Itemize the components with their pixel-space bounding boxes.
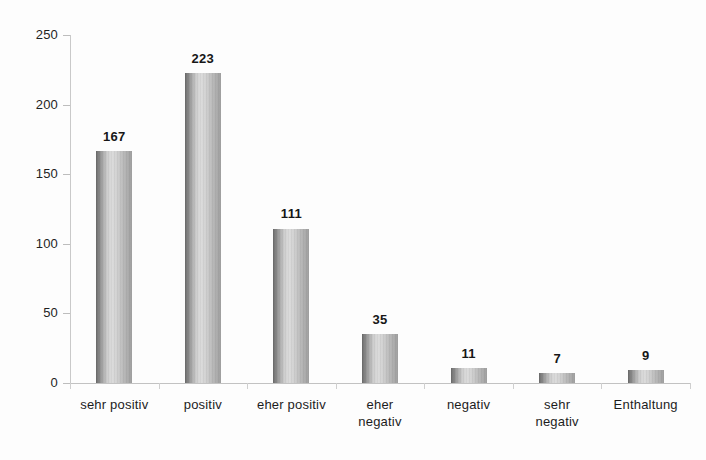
x-axis-category-label: eher negativ xyxy=(330,396,430,430)
x-axis-tick xyxy=(247,383,248,389)
bars-container xyxy=(70,30,690,383)
y-axis-tick-label: 100 xyxy=(10,236,58,251)
x-axis-category-label: eher positiv xyxy=(241,396,341,413)
bar-value-label: 223 xyxy=(163,51,243,66)
x-axis-category-label: sehr negativ xyxy=(507,396,607,430)
x-axis-category-label: Enthaltung xyxy=(596,396,696,413)
y-axis-tick xyxy=(63,383,70,384)
x-axis-tick xyxy=(70,383,71,389)
y-axis-tick xyxy=(63,313,70,314)
bar xyxy=(628,370,664,383)
bar-value-label: 167 xyxy=(74,129,154,144)
y-axis-tick-label: 250 xyxy=(10,27,58,42)
y-axis-tick-label: 0 xyxy=(10,375,58,390)
bar-chart: 050100150200250 167223111351179 sehr pos… xyxy=(0,0,706,460)
bar-value-label: 11 xyxy=(429,346,509,361)
bar-value-label: 7 xyxy=(517,351,597,366)
x-axis-category-label: positiv xyxy=(153,396,253,413)
y-axis-tick-label: 50 xyxy=(10,305,58,320)
bar xyxy=(185,73,221,383)
x-axis-tick xyxy=(690,383,691,389)
x-axis-line xyxy=(70,383,690,384)
x-axis-tick xyxy=(336,383,337,389)
bar xyxy=(273,229,309,384)
bar-value-label: 35 xyxy=(340,312,420,327)
bar xyxy=(96,151,132,383)
x-axis-tick xyxy=(424,383,425,389)
x-axis-category-label: negativ xyxy=(419,396,519,413)
x-axis-tick xyxy=(513,383,514,389)
x-axis-tick xyxy=(601,383,602,389)
bar xyxy=(539,373,575,383)
bar xyxy=(362,334,398,383)
bar-value-label: 111 xyxy=(251,206,331,221)
bar xyxy=(451,368,487,383)
y-axis-tick xyxy=(63,35,70,36)
x-axis-category-label: sehr positiv xyxy=(64,396,164,413)
y-axis-tick xyxy=(63,105,70,106)
x-axis-tick xyxy=(159,383,160,389)
y-axis-tick-label: 150 xyxy=(10,166,58,181)
y-axis-tick xyxy=(63,174,70,175)
bar-value-label: 9 xyxy=(606,348,686,363)
y-axis-tick-label: 200 xyxy=(10,97,58,112)
y-axis-tick xyxy=(63,244,70,245)
